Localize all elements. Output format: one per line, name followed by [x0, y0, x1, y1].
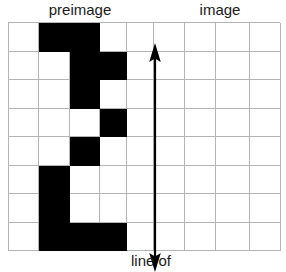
grid-cell [70, 166, 100, 195]
grid-cell [70, 137, 100, 166]
grid-cell [9, 109, 39, 138]
grid-cell [250, 23, 281, 52]
grid-cell [100, 23, 127, 52]
image-label: image [160, 1, 280, 18]
grid-cell [39, 80, 70, 109]
grid-cell [216, 194, 250, 223]
grid-cell [9, 80, 39, 109]
grid-cell [216, 52, 250, 81]
grid-cell [100, 52, 127, 81]
grid-cell [39, 109, 70, 138]
grid-cell [100, 223, 127, 252]
grid-cell [250, 137, 281, 166]
grid-cell [70, 223, 100, 252]
grid-cell [70, 80, 100, 109]
grid-cell [9, 137, 39, 166]
grid-cell [70, 52, 100, 81]
grid-cell [70, 109, 100, 138]
grid-cell [250, 194, 281, 223]
grid-cell [216, 109, 250, 138]
grid-cell [39, 137, 70, 166]
grid-cell [216, 223, 250, 252]
grid-cell [250, 52, 281, 81]
grid-cell [100, 137, 127, 166]
grid-cell [185, 52, 216, 81]
grid-cell [39, 194, 70, 223]
grid-cell [250, 223, 281, 252]
grid-cell [100, 80, 127, 109]
line-of-reflection-arrow [144, 42, 166, 272]
grid-cell [39, 223, 70, 252]
grid-cell [70, 194, 100, 223]
grid-cell [185, 23, 216, 52]
preimage-label: preimage [0, 1, 160, 18]
grid-cell [185, 109, 216, 138]
grid-cell [9, 166, 39, 195]
grid-cell [185, 166, 216, 195]
grid-cell [70, 23, 100, 52]
grid-cell [216, 166, 250, 195]
grid-cell [100, 166, 127, 195]
grid-cell [9, 194, 39, 223]
grid-cell [9, 52, 39, 81]
grid-cell [185, 137, 216, 166]
grid-cell [250, 109, 281, 138]
line-of-caption: line of [96, 252, 206, 269]
grid-cell [185, 194, 216, 223]
grid-cell [39, 166, 70, 195]
grid-cell [39, 23, 70, 52]
grid-cell [250, 80, 281, 109]
grid-container [8, 22, 280, 251]
reflection-figure: preimage image line of [0, 0, 286, 272]
grid-cell [250, 166, 281, 195]
grid-cell [9, 23, 39, 52]
grid-cell [185, 223, 216, 252]
grid-cell [9, 223, 39, 252]
grid-cell [100, 109, 127, 138]
grid-cell [216, 80, 250, 109]
grid-cell [100, 194, 127, 223]
grid-cell [39, 52, 70, 81]
grid-cell [216, 23, 250, 52]
grid-cell [185, 80, 216, 109]
grid-cell [216, 137, 250, 166]
